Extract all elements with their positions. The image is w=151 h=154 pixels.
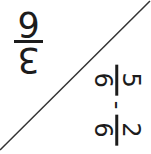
- answer-fraction: 3 6: [12, 9, 45, 74]
- fraction-2-numerator: 2: [121, 122, 140, 137]
- problem-fraction-2: 2 6: [94, 114, 141, 145]
- minus-operator: -: [108, 101, 127, 110]
- answer-denominator: 6: [17, 10, 39, 37]
- fraction-1-numerator: 5: [121, 73, 140, 88]
- fraction-1-denominator: 6: [94, 73, 113, 88]
- puzzle-card: 3 6 5 6 - 2 6: [0, 0, 151, 154]
- fraction-2-denominator: 6: [94, 122, 113, 137]
- problem-expression: 5 6 - 2 6: [94, 65, 141, 146]
- problem-fraction-1: 5 6: [94, 65, 141, 96]
- answer-numerator: 3: [17, 46, 39, 73]
